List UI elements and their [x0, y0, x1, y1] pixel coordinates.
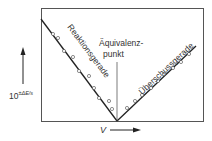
excess-line-label: Überschussgerade: [137, 40, 196, 96]
x-axis-arrow-icon: [110, 128, 141, 133]
equivalence-label-line2: punkt: [103, 49, 124, 59]
plot-frame: [42, 9, 204, 122]
equivalence-label-line1: Äquivalenz-: [99, 38, 144, 48]
x-axis-label: V: [100, 125, 107, 135]
titration-diagram: 10±ΔE/s V Reaktionsgerade Übersch: [0, 0, 212, 141]
y-axis-label: 10±ΔE/s: [9, 90, 33, 101]
y-axis-arrow-icon: [21, 47, 26, 84]
